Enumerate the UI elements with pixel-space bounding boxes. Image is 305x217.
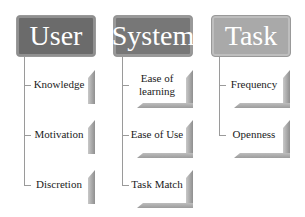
item-knowledge-label: Knowledge [34, 78, 91, 91]
shadow-decoration [88, 170, 95, 204]
shadow-decoration [234, 153, 290, 158]
connector-task [219, 57, 220, 135]
connector-system [122, 57, 123, 185]
shadow-decoration [283, 120, 290, 154]
item-ease-of-use-label: Ease of Use [131, 128, 190, 141]
item-openness-label: Openness [233, 128, 282, 141]
shadow-decoration [186, 120, 193, 154]
item-frequency-label: Frequency [231, 78, 283, 91]
shadow-decoration [88, 70, 95, 104]
item-task-match-label: Task Match [131, 178, 188, 191]
header-task-label: Task [225, 22, 277, 50]
item-ease-of-learning: Ease of learning [129, 66, 191, 104]
shadow-decoration [137, 103, 193, 108]
item-discretion: Discretion [31, 166, 93, 204]
header-task: Task [211, 15, 291, 57]
header-user: User [16, 15, 96, 57]
shadow-decoration [234, 103, 290, 108]
item-frequency: Frequency [226, 66, 288, 104]
item-knowledge: Knowledge [31, 66, 93, 104]
shadow-decoration [137, 203, 193, 208]
item-motivation: Motivation [31, 116, 93, 154]
header-user-label: User [30, 22, 83, 50]
connector-user [24, 57, 25, 185]
shadow-decoration [137, 153, 193, 158]
item-openness: Openness [226, 116, 288, 154]
item-task-match: Task Match [129, 166, 191, 204]
shadow-decoration [88, 120, 95, 154]
item-discretion-label: Discretion [36, 178, 88, 191]
header-system: System [113, 15, 193, 57]
shadow-decoration [283, 70, 290, 104]
item-motivation-label: Motivation [35, 128, 90, 141]
item-ease-of-use: Ease of Use [129, 116, 191, 154]
item-ease-of-learning-label: Ease of learning [129, 72, 191, 98]
shadow-decoration [186, 170, 193, 204]
header-system-label: System [112, 22, 194, 50]
